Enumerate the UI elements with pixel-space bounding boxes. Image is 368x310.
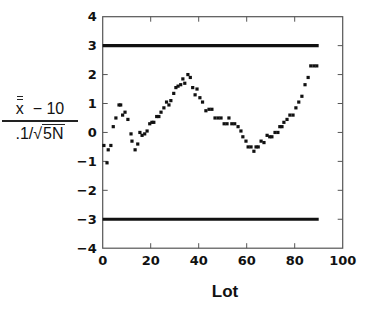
data-point bbox=[244, 140, 247, 143]
data-point bbox=[167, 103, 170, 106]
data-point bbox=[262, 141, 265, 144]
x-tick-label: 40 bbox=[190, 253, 208, 268]
data-point bbox=[276, 131, 279, 134]
data-point bbox=[247, 145, 250, 148]
data-point bbox=[130, 140, 133, 143]
y-tick-label: 1 bbox=[88, 96, 97, 111]
y-tick-label: −2 bbox=[77, 183, 97, 198]
data-point bbox=[252, 150, 255, 153]
y-tick-label: 4 bbox=[88, 9, 97, 24]
data-point bbox=[181, 77, 184, 80]
y-tick-label: 2 bbox=[88, 67, 97, 82]
data-point bbox=[138, 131, 141, 134]
data-point bbox=[119, 103, 122, 106]
data-point bbox=[201, 100, 204, 103]
data-point bbox=[225, 122, 228, 125]
data-point bbox=[227, 116, 230, 119]
x-tick-label: 100 bbox=[329, 253, 356, 268]
x-tick-label: 80 bbox=[286, 253, 304, 268]
tick-labels: 020406080100−4−3−2−101234 bbox=[77, 9, 357, 268]
data-point bbox=[223, 122, 226, 125]
data-point bbox=[143, 132, 146, 135]
y-label-radicand: 5N bbox=[42, 124, 64, 142]
data-point bbox=[126, 118, 129, 121]
data-point bbox=[189, 76, 192, 79]
data-point bbox=[121, 113, 124, 116]
data-point bbox=[213, 116, 216, 119]
data-point bbox=[204, 109, 207, 112]
data-point bbox=[162, 106, 165, 109]
data-point bbox=[114, 116, 117, 119]
data-point bbox=[294, 106, 297, 109]
y-tick-label: 0 bbox=[88, 125, 97, 140]
data-point bbox=[307, 76, 310, 79]
data-point bbox=[129, 132, 132, 135]
plot-area: 020406080100−4−3−2−101234 bbox=[0, 0, 368, 310]
data-point bbox=[285, 118, 288, 121]
control-chart: 020406080100−4−3−2−101234 x − 10 .1/√5N … bbox=[0, 0, 368, 310]
y-tick-label: 3 bbox=[88, 38, 97, 53]
data-point bbox=[195, 87, 198, 90]
data-point bbox=[297, 100, 300, 103]
data-point bbox=[241, 135, 244, 138]
data-point bbox=[303, 83, 306, 86]
x-double-bar-symbol: x bbox=[16, 100, 24, 118]
data-point bbox=[236, 125, 239, 128]
y-label-denominator-prefix: .1/√ bbox=[15, 125, 42, 142]
data-point bbox=[300, 95, 303, 98]
data-point bbox=[159, 111, 162, 114]
data-point bbox=[282, 121, 285, 124]
data-point bbox=[288, 113, 291, 116]
data-point bbox=[309, 64, 312, 67]
x-tick-label: 20 bbox=[142, 253, 160, 268]
control-limit-lines bbox=[103, 46, 319, 220]
data-point bbox=[157, 115, 160, 118]
data-point bbox=[198, 96, 201, 99]
data-point bbox=[134, 148, 137, 151]
data-point bbox=[107, 148, 110, 151]
data-point bbox=[217, 116, 220, 119]
data-point bbox=[102, 144, 105, 147]
data-point bbox=[165, 100, 168, 103]
y-label-denominator: .1/√5N bbox=[2, 125, 78, 143]
data-point bbox=[233, 122, 236, 125]
data-point bbox=[152, 121, 155, 124]
data-point bbox=[207, 108, 210, 111]
data-point bbox=[219, 116, 222, 119]
data-point bbox=[260, 140, 263, 143]
data-point bbox=[270, 135, 273, 138]
data-point bbox=[210, 108, 213, 111]
data-point bbox=[273, 131, 276, 134]
data-point bbox=[257, 145, 260, 148]
data-point bbox=[179, 83, 182, 86]
data-point bbox=[186, 73, 189, 76]
x-axis-label: Lot bbox=[200, 282, 250, 302]
data-point bbox=[172, 92, 175, 95]
data-point bbox=[291, 113, 294, 116]
data-point bbox=[146, 129, 149, 132]
data-point bbox=[105, 161, 108, 164]
data-point bbox=[230, 122, 233, 125]
y-tick-label: −3 bbox=[77, 212, 97, 227]
data-point bbox=[136, 142, 139, 145]
fraction-bar bbox=[2, 120, 78, 122]
data-point bbox=[169, 99, 172, 102]
y-label-numerator-rest: − 10 bbox=[24, 100, 64, 117]
y-axis-label: x − 10 .1/√5N bbox=[2, 100, 78, 143]
data-points bbox=[102, 64, 318, 164]
y-label-numerator: x − 10 bbox=[2, 100, 78, 118]
data-point bbox=[315, 64, 318, 67]
y-tick-label: −4 bbox=[77, 241, 97, 256]
x-tick-label: 0 bbox=[98, 253, 107, 268]
data-point bbox=[109, 144, 112, 147]
y-tick-label: −1 bbox=[77, 154, 97, 169]
data-point bbox=[249, 145, 252, 148]
x-tick-label: 60 bbox=[238, 253, 256, 268]
data-point bbox=[183, 82, 186, 85]
data-point bbox=[194, 93, 197, 96]
data-point bbox=[312, 64, 315, 67]
data-point bbox=[123, 111, 126, 114]
data-point bbox=[280, 125, 283, 128]
data-point bbox=[112, 125, 115, 128]
data-point bbox=[239, 129, 242, 132]
